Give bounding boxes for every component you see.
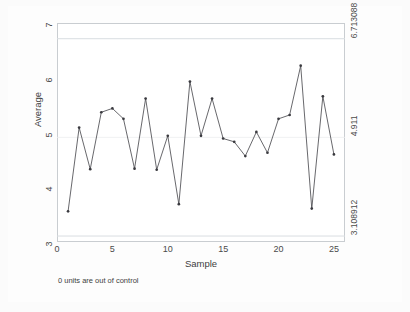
- y2-axis-control-limits: 3.1089124.9116.713088: [348, 0, 406, 312]
- data-point-marker: [266, 151, 269, 154]
- data-point-marker: [200, 134, 203, 137]
- data-point-marker: [189, 80, 192, 83]
- data-point-marker: [166, 134, 169, 137]
- data-point-marker: [322, 95, 325, 98]
- y2-tick-label: 4.911: [350, 116, 359, 137]
- x-tick-label: 10: [163, 245, 173, 254]
- control-chart: Average 34567 3.1089124.9116.713088 0510…: [0, 0, 410, 312]
- data-point-marker: [78, 126, 81, 129]
- y-axis: Average 34567: [0, 0, 57, 312]
- y-tick-label: 7: [45, 23, 54, 28]
- x-tick-label: 25: [329, 245, 339, 254]
- data-point-marker: [122, 117, 125, 120]
- plot-canvas: [57, 23, 345, 242]
- x-tick-label: 5: [110, 245, 115, 254]
- data-point-marker: [288, 114, 291, 117]
- data-point-marker: [178, 203, 181, 206]
- data-point-marker: [144, 97, 147, 100]
- x-tick-label: 15: [218, 245, 228, 254]
- data-point-marker: [277, 117, 280, 120]
- x-tick-label: 0: [54, 245, 59, 254]
- y-tick-label: 5: [45, 132, 54, 137]
- y-tick-label: 6: [45, 77, 54, 82]
- data-point-marker: [155, 168, 158, 171]
- data-point-marker: [233, 140, 236, 143]
- y-axis-title: Average: [32, 92, 43, 127]
- data-point-marker: [255, 131, 258, 134]
- data-point-marker: [111, 107, 114, 110]
- data-point-marker: [211, 97, 214, 100]
- x-tick-label: 20: [274, 245, 284, 254]
- x-axis-title: Sample: [185, 258, 217, 269]
- data-point-marker: [244, 155, 247, 158]
- data-point-marker: [67, 210, 70, 213]
- data-point-marker: [89, 168, 92, 171]
- data-series-line: [68, 66, 334, 212]
- data-point-marker: [222, 137, 225, 140]
- y2-tick-label: 3.108912: [350, 200, 359, 235]
- data-point-marker: [333, 153, 336, 156]
- data-point-marker: [299, 64, 302, 67]
- data-point-marker: [100, 111, 103, 114]
- data-point-marker: [133, 167, 136, 170]
- y2-tick-label: 6.713088: [350, 3, 359, 38]
- out-of-control-note: 0 units are out of control: [58, 276, 138, 285]
- data-point-marker: [310, 207, 313, 210]
- y-tick-label: 4: [45, 187, 54, 192]
